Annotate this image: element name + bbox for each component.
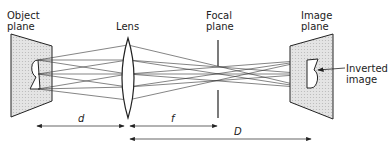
lens (122, 38, 134, 118)
object-plane-label: Object plane (7, 10, 40, 32)
dimension-f-label: f (171, 113, 175, 124)
dimension-d-label: d (78, 113, 84, 124)
inverted-keyhole-image-icon (307, 59, 318, 88)
light-rays (38, 45, 310, 100)
inverted-image-label: Inverted image (346, 63, 388, 85)
image-plane (290, 34, 345, 119)
dimension-lines (37, 126, 311, 139)
object-plane (11, 34, 52, 117)
lens-label: Lens (116, 21, 139, 32)
optics-diagram: Object plane Lens Focal plane Image plan… (0, 0, 391, 148)
dimension-D-label: D (234, 126, 242, 137)
diagram-canvas (0, 0, 391, 148)
image-plane-label: Image plane (301, 10, 332, 32)
focal-plane-label: Focal plane (206, 10, 234, 32)
